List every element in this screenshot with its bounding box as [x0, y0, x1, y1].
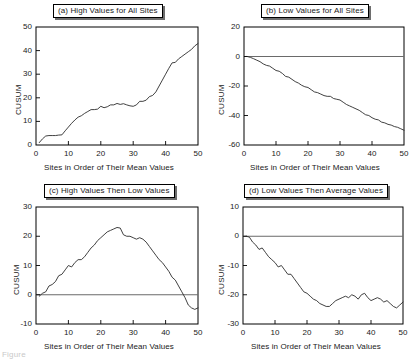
x-tick-label: 0: [24, 149, 48, 158]
panel-c-title: (c) High Values Then Low Values: [44, 184, 175, 198]
y-tick-label: -30: [209, 319, 239, 328]
y-tick-label: -40: [210, 111, 240, 120]
x-tick-label: 10: [263, 328, 287, 337]
cusum-series-line: [246, 236, 403, 308]
y-tick-label: 0: [2, 290, 32, 299]
chart-panel-a: (a) High Values for All Sites CUSUM Site…: [0, 0, 205, 179]
y-tick-label: 20: [2, 93, 32, 102]
chart-panel-b: (b) Low Values for All Sites CUSUM Sites…: [205, 0, 411, 179]
cusum-figure: (a) High Values for All Sites CUSUM Site…: [0, 0, 411, 359]
y-tick-label: 0: [209, 231, 239, 240]
plot-frame: [36, 207, 198, 324]
x-tick-label: 0: [231, 328, 255, 337]
x-tick-label: 10: [56, 149, 80, 158]
y-tick-label: -10: [2, 319, 32, 328]
x-tick-label: 40: [360, 149, 384, 158]
y-tick-label: -20: [210, 81, 240, 90]
panel-d-title: (d) Low Values Then Average Values: [244, 184, 388, 198]
x-tick-label: 20: [296, 149, 320, 158]
y-tick-label: -20: [209, 290, 239, 299]
plot-frame: [244, 27, 404, 145]
y-tick-label: 0: [210, 52, 240, 61]
x-tick-label: 30: [327, 328, 351, 337]
chart-panel-d: (d) Low Values Then Average Values CUSUM…: [205, 179, 411, 359]
y-tick-label: 10: [2, 116, 32, 125]
x-tick-label: 30: [121, 149, 145, 158]
chart-panel-c: (c) High Values Then Low Values CUSUM Si…: [0, 179, 205, 359]
plot-frame: [36, 27, 198, 145]
y-tick-label: 20: [2, 231, 32, 240]
plot-frame: [243, 207, 403, 324]
y-tick-label: 0: [2, 140, 32, 149]
panel-a-title: (a) High Values for All Sites: [53, 4, 163, 18]
figure-caption-partial: Figure: [2, 350, 26, 359]
y-tick-label: -60: [210, 140, 240, 149]
x-tick-label: 40: [359, 328, 383, 337]
x-tick-label: 30: [121, 328, 145, 337]
y-tick-label: 30: [2, 69, 32, 78]
x-tick-label: 20: [89, 328, 113, 337]
x-tick-label: 10: [56, 328, 80, 337]
y-tick-label: 20: [210, 22, 240, 31]
y-tick-label: 40: [2, 46, 32, 55]
x-tick-label: 50: [392, 149, 411, 158]
x-tick-label: 40: [154, 149, 178, 158]
x-tick-label: 20: [295, 328, 319, 337]
y-tick-label: 30: [2, 202, 32, 211]
panel-c-xlabel: Sites in Order of Their Mean Values: [19, 342, 199, 351]
y-tick-label: 10: [209, 202, 239, 211]
y-tick-label: 10: [2, 261, 32, 270]
y-tick-label: -10: [209, 261, 239, 270]
cusum-series-line: [39, 227, 198, 309]
x-tick-label: 0: [24, 328, 48, 337]
cusum-series-line: [39, 44, 198, 143]
cusum-series-line: [247, 57, 404, 131]
panel-b-xlabel: Sites in Order of Their Mean Values: [224, 163, 406, 172]
panel-d-xlabel: Sites in Order of Their Mean Values: [225, 342, 407, 351]
x-tick-label: 0: [232, 149, 256, 158]
x-tick-label: 50: [391, 328, 411, 337]
y-tick-label: 50: [2, 22, 32, 31]
panel-a-xlabel: Sites in Order of Their Mean Values: [19, 163, 199, 172]
x-tick-label: 10: [264, 149, 288, 158]
panel-b-title: (b) Low Values for All Sites: [261, 4, 369, 18]
x-tick-label: 20: [89, 149, 113, 158]
x-tick-label: 40: [154, 328, 178, 337]
x-tick-label: 30: [328, 149, 352, 158]
